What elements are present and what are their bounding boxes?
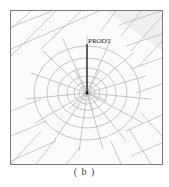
figure-caption: ( b ) — [0, 166, 169, 177]
shaded-region — [106, 11, 162, 51]
spiderweb-mesh-diagram — [11, 11, 162, 164]
rod-base-node — [85, 91, 88, 94]
mesh-figure-frame: PROD5 — [10, 10, 163, 165]
rod-label: PROD5 — [88, 37, 110, 45]
